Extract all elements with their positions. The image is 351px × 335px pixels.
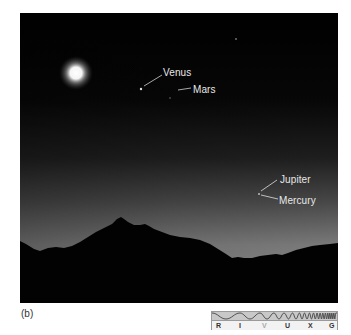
planet-label-mars: Mars <box>193 84 216 95</box>
band-letter-ultraviolet: U <box>285 321 290 330</box>
moon <box>59 56 93 90</box>
jupiter-mercury-dot <box>258 193 260 195</box>
sky-scene-svg <box>20 13 338 303</box>
band-letter-xray: X <box>308 321 313 330</box>
band-letter-radio: R <box>216 321 221 330</box>
mars-dot <box>169 97 170 98</box>
panel-label: (b) <box>21 308 33 319</box>
wavelength-letters-row: R I V U X G <box>212 320 337 330</box>
planet-label-venus: Venus <box>163 67 191 78</box>
venus-dot <box>140 88 142 90</box>
planet-label-mercury: Mercury <box>279 195 316 206</box>
night-sky-photo: Venus Mars Jupiter Mercury <box>20 13 338 303</box>
band-letter-infrared: I <box>239 321 241 330</box>
wave-icon <box>212 312 337 320</box>
band-letter-visible: V <box>262 321 267 330</box>
faint-star <box>235 38 237 40</box>
wavelength-spectrum-bar: R I V U X G <box>211 311 338 330</box>
wavelength-wave-band <box>212 312 337 320</box>
band-letter-gamma: G <box>329 321 334 330</box>
planet-label-jupiter: Jupiter <box>280 174 311 185</box>
